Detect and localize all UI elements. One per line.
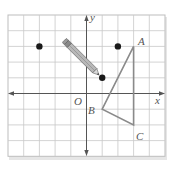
point-1 (36, 43, 42, 49)
point-2 (115, 43, 121, 49)
vertex-label-a: A (137, 35, 145, 47)
coordinate-diagram: y x O A B C (0, 0, 172, 172)
y-axis-label: y (89, 11, 95, 23)
vertex-label-b: B (88, 104, 95, 116)
origin-label: O (74, 95, 82, 107)
point-3 (99, 75, 105, 81)
x-axis-label: x (154, 94, 160, 106)
vertex-label-c: C (136, 130, 144, 142)
